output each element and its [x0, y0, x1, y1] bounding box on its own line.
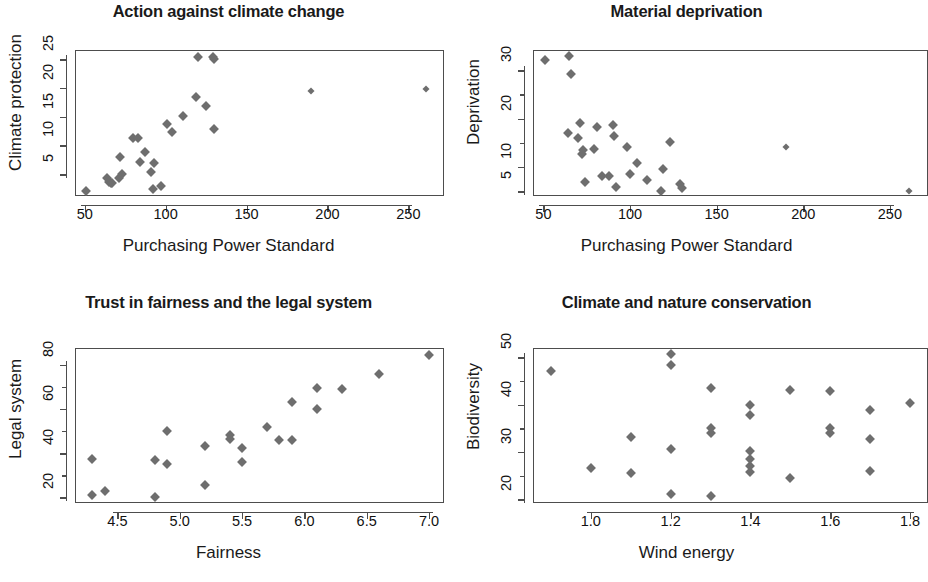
y-tick-minor: [520, 381, 525, 382]
x-tick-label: 1.0: [581, 513, 601, 529]
chart-panel-bottom-left: Trust in fairness and the legal system4.…: [0, 291, 457, 582]
y-tick-label: 25: [40, 27, 58, 59]
y-tick-label: 20: [40, 465, 58, 497]
y-tick-label: 20: [40, 56, 58, 88]
y-tick-label: 10: [498, 135, 516, 167]
panel-title: Climate and nature conservation: [458, 293, 915, 312]
y-tick-label: 20: [498, 87, 516, 119]
x-tick-label: 50: [77, 206, 93, 222]
panel-title: Material deprivation: [458, 2, 915, 21]
y-tick: [518, 119, 525, 120]
y-axis-title: Legal system: [6, 339, 26, 479]
y-tick-minor: [520, 94, 525, 95]
y-tick-minor: [62, 475, 67, 476]
y-tick-label: 30: [498, 38, 516, 70]
chart-panel-top-left: Action against climate change50100150200…: [0, 0, 457, 291]
x-tick-label: 100: [618, 206, 642, 222]
x-tick-label: 100: [154, 206, 178, 222]
y-axis-title: Deprivation: [464, 42, 484, 162]
x-tick-label: 6.5: [357, 513, 377, 529]
y-tick-label: 30: [498, 420, 516, 452]
x-tick-label: 1.4: [740, 513, 760, 529]
y-tick-minor: [520, 428, 525, 429]
y-tick-label: 40: [498, 373, 516, 405]
x-tick-label: 6.0: [294, 513, 314, 529]
y-tick-minor: [520, 476, 525, 477]
y-tick-label: 15: [40, 85, 58, 117]
x-tick-label: 7.0: [419, 513, 439, 529]
y-tick: [60, 174, 67, 175]
y-tick-label: 20: [498, 467, 516, 499]
x-axis-title: Wind energy: [458, 543, 915, 563]
panel-title: Trust in fairness and the legal system: [0, 293, 457, 312]
x-tick-label: 50: [535, 206, 551, 222]
y-tick: [60, 453, 67, 454]
chart-panel-top-right: Material deprivation50100150200250510203…: [458, 0, 915, 291]
y-axis-title: Climate protection: [6, 22, 26, 182]
y-tick: [518, 70, 525, 71]
x-tick-label: 200: [315, 206, 339, 222]
x-axis-title: Purchasing Power Standard: [458, 236, 915, 256]
y-tick: [518, 499, 525, 500]
y-axis-title: Biodiversity: [464, 339, 484, 474]
y-tick-minor: [62, 431, 67, 432]
x-tick-label: 150: [705, 206, 729, 222]
plot-area: [75, 50, 444, 196]
y-tick: [60, 409, 67, 410]
y-tick: [518, 167, 525, 168]
y-tick: [60, 497, 67, 498]
y-tick: [60, 88, 67, 89]
y-tick-label: 60: [40, 377, 58, 409]
y-axis-line: [524, 66, 525, 195]
y-tick-label: 5: [40, 142, 58, 174]
x-tick-label: 1.8: [900, 513, 920, 529]
chart-panel-bottom-right: Climate and nature conservation1.01.21.4…: [458, 291, 915, 582]
x-axis-title: Fairness: [0, 543, 457, 563]
y-tick-minor: [520, 143, 525, 144]
x-tick-label: 250: [878, 206, 902, 222]
y-tick: [60, 365, 67, 366]
plot-area: [533, 50, 928, 196]
y-tick-label: 50: [498, 325, 516, 357]
x-axis-line: [113, 512, 433, 513]
y-tick: [518, 191, 525, 192]
x-tick-label: 5.0: [170, 513, 190, 529]
y-tick: [518, 357, 525, 358]
x-tick-label: 4.5: [107, 513, 127, 529]
x-tick-label: 1.2: [661, 513, 681, 529]
x-axis-title: Purchasing Power Standard: [0, 236, 457, 256]
y-tick-label: 40: [40, 421, 58, 453]
x-tick-label: 250: [396, 206, 420, 222]
y-tick-minor: [62, 387, 67, 388]
y-tick-label: 80: [40, 333, 58, 365]
y-tick-label: 10: [40, 113, 58, 145]
y-tick: [518, 452, 525, 453]
panel-title: Action against climate change: [0, 2, 457, 21]
x-tick-label: 200: [791, 206, 815, 222]
y-tick: [518, 405, 525, 406]
y-tick: [60, 117, 67, 118]
x-tick-label: 5.5: [232, 513, 252, 529]
plot-area: [533, 348, 928, 503]
y-tick: [60, 59, 67, 60]
x-tick-label: 1.6: [820, 513, 840, 529]
y-tick: [60, 145, 67, 146]
x-tick-label: 150: [234, 206, 258, 222]
plot-area: [75, 348, 444, 503]
